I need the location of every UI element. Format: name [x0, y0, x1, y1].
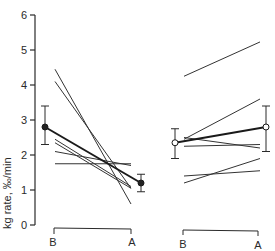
left-category-a: A	[128, 236, 136, 248]
right-category-a: A	[254, 239, 262, 251]
y-axis-label: kg rate, ‰/min	[1, 157, 13, 229]
chart: 6 5 4 3 2 1 0 kg rate, ‰/min B A B A	[0, 0, 275, 251]
y-tick-1: 1	[21, 184, 27, 196]
mean-marker	[172, 140, 178, 146]
individual-line	[55, 69, 131, 204]
individual-line	[55, 139, 131, 186]
right-category-bracket	[183, 230, 258, 236]
left-category-b: B	[49, 236, 56, 248]
mean-marker	[263, 124, 269, 130]
mean-marker	[42, 124, 48, 130]
left-panel-mean-series	[41, 106, 145, 192]
individual-line	[184, 42, 260, 76]
individual-line	[55, 143, 131, 189]
left-panel-individual-lines	[55, 69, 131, 204]
mean-marker	[138, 180, 144, 186]
left-category-bracket	[54, 228, 131, 234]
y-axis	[30, 15, 35, 225]
individual-line	[184, 159, 260, 184]
y-tick-6: 6	[21, 9, 27, 21]
y-tick-5: 5	[21, 44, 27, 56]
individual-line	[55, 82, 131, 189]
y-tick-3: 3	[21, 114, 27, 126]
y-tick-2: 2	[21, 149, 27, 161]
y-tick-4: 4	[21, 79, 27, 91]
right-panel-mean-series	[171, 106, 270, 159]
right-category-b: B	[179, 238, 186, 250]
y-tick-0: 0	[21, 219, 27, 231]
individual-line	[184, 99, 260, 139]
individual-line	[184, 171, 260, 176]
right-panel-individual-lines	[184, 42, 260, 183]
y-tick-labels: 6 5 4 3 2 1 0	[21, 9, 27, 231]
mean-line	[175, 127, 266, 143]
